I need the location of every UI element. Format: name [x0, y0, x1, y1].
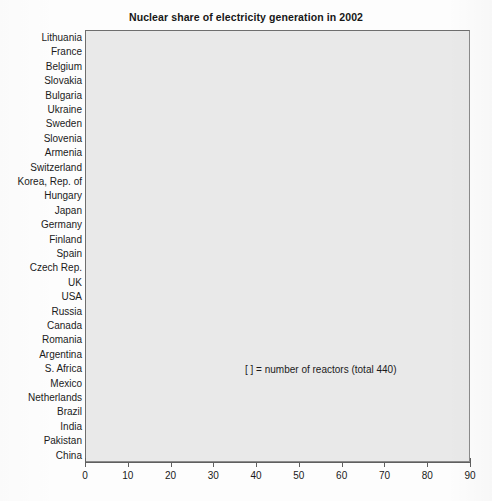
x-axis-tick: [128, 462, 129, 467]
x-axis-endcap: [85, 458, 86, 463]
plot-inner: [86, 31, 469, 461]
x-axis-tick-label: 90: [464, 470, 475, 481]
chart-figure: Nuclear share of electricity generation …: [0, 0, 492, 501]
reactor-count-annotation: [ ] = number of reactors (total 440): [245, 364, 396, 375]
x-axis-tick: [299, 462, 300, 467]
x-axis-tick-label: 20: [165, 470, 176, 481]
x-axis-tick-label: 10: [122, 470, 133, 481]
x-axis: [85, 462, 470, 463]
x-axis-tick: [342, 462, 343, 467]
x-axis-tick: [384, 462, 385, 467]
plot-area: [85, 30, 470, 462]
x-axis-tick: [213, 462, 214, 467]
x-axis-endcap: [470, 458, 471, 463]
x-axis-tick: [256, 462, 257, 467]
x-axis-tick-label: 60: [336, 470, 347, 481]
x-axis-tick-label: 50: [293, 470, 304, 481]
chart-title: Nuclear share of electricity generation …: [0, 11, 492, 23]
x-axis-tick: [427, 462, 428, 467]
x-axis-tick-label: 70: [379, 470, 390, 481]
x-axis-tick: [171, 462, 172, 467]
x-axis-tick-label: 30: [208, 470, 219, 481]
x-axis-tick-label: 0: [82, 470, 88, 481]
x-axis-tick-label: 40: [251, 470, 262, 481]
x-axis-tick-label: 80: [422, 470, 433, 481]
